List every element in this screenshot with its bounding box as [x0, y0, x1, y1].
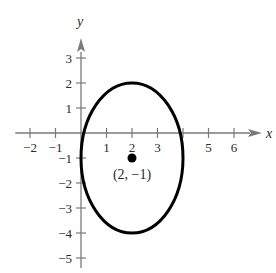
y-tick-label: 1 — [66, 101, 73, 116]
x-tick-label: 1 — [103, 140, 110, 155]
center-point-label: (2, −1) — [113, 167, 152, 183]
x-axis-label: x — [265, 126, 273, 141]
y-tick-label: −5 — [58, 251, 72, 266]
center-point: (2, −1) — [113, 154, 152, 184]
x-tick-label: 6 — [231, 140, 238, 155]
y-axis-arrow-icon — [77, 38, 85, 52]
x-axis-arrow-icon — [248, 129, 262, 137]
x-tick-label: 3 — [154, 140, 161, 155]
x-tick-label: 5 — [205, 140, 212, 155]
y-tick-label: −1 — [58, 151, 72, 166]
y-tick-label: −4 — [58, 226, 72, 241]
center-dot — [128, 154, 137, 163]
y-tick-label: 2 — [66, 76, 73, 91]
y-tick-label: −3 — [58, 201, 72, 216]
x-tick-label: −2 — [23, 140, 37, 155]
y-tick-label: −2 — [58, 176, 72, 191]
ellipse-chart: xy −2−112356321−1−2−3−4−5 (2, −1) — [0, 0, 276, 273]
y-axis-label: y — [75, 14, 84, 29]
y-tick-label: 3 — [66, 51, 73, 66]
x-tick-label: 2 — [129, 140, 136, 155]
